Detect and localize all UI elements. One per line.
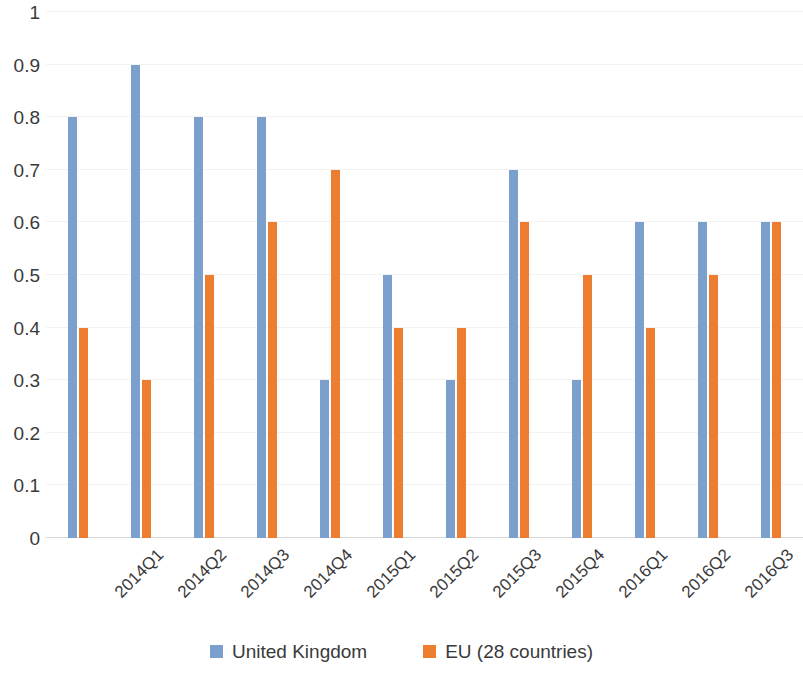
gridline	[46, 484, 803, 485]
bar[interactable]	[583, 275, 592, 538]
bar-group	[635, 12, 655, 538]
gridline	[46, 379, 803, 380]
y-axis-tick-label: 0.5	[14, 266, 40, 285]
y-axis-tick-label: 0.6	[14, 213, 40, 232]
bar-group	[509, 12, 529, 538]
x-axis-tick-label: 2014Q1	[111, 546, 166, 601]
bar-group	[446, 12, 466, 538]
bar[interactable]	[79, 328, 88, 538]
y-axis-tick-label: 0	[29, 529, 40, 548]
gridline	[46, 221, 803, 222]
bar[interactable]	[698, 222, 707, 538]
y-axis-tick-label: 0.1	[14, 476, 40, 495]
bar[interactable]	[131, 65, 140, 538]
x-axis-tick-label: 2016Q2	[679, 546, 734, 601]
bar[interactable]	[194, 117, 203, 538]
bar-group	[320, 12, 340, 538]
y-axis-tick-label: 0.8	[14, 108, 40, 127]
bar[interactable]	[457, 328, 466, 538]
bar-group	[131, 12, 151, 538]
bar-chart: 00.10.20.30.40.50.60.70.80.91 2014Q12014…	[0, 0, 803, 675]
plot-area	[46, 12, 803, 538]
x-axis-tick-label: 2014Q3	[237, 546, 292, 601]
bar[interactable]	[394, 328, 403, 538]
bar[interactable]	[635, 222, 644, 538]
y-axis-tick-label: 1	[29, 3, 40, 22]
gridline	[46, 64, 803, 65]
bar[interactable]	[509, 170, 518, 538]
gridline	[46, 169, 803, 170]
bar[interactable]	[520, 222, 529, 538]
bar-group	[761, 12, 781, 538]
gridline	[46, 11, 803, 12]
y-axis-tick-label: 0.2	[14, 423, 40, 442]
y-axis: 00.10.20.30.40.50.60.70.80.91	[0, 0, 46, 560]
x-axis-tick-label: 2014Q2	[174, 546, 229, 601]
legend-item[interactable]: United Kingdom	[210, 642, 367, 661]
bar[interactable]	[142, 380, 151, 538]
gridline	[46, 274, 803, 275]
x-axis-tick-label: 2015Q2	[427, 546, 482, 601]
bar[interactable]	[331, 170, 340, 538]
x-axis-tick-label: 2015Q4	[553, 546, 608, 601]
bar-group	[257, 12, 277, 538]
bar[interactable]	[268, 222, 277, 538]
bar-group	[68, 12, 88, 538]
bar[interactable]	[383, 275, 392, 538]
y-axis-tick-label: 0.4	[14, 318, 40, 337]
bar[interactable]	[646, 328, 655, 538]
bar-group	[698, 12, 718, 538]
x-axis: 2014Q12014Q22014Q32014Q42015Q12015Q22015…	[46, 538, 803, 628]
bar[interactable]	[572, 380, 581, 538]
chart-legend: United KingdomEU (28 countries)	[0, 636, 803, 666]
bar[interactable]	[772, 222, 781, 538]
bar-group	[572, 12, 592, 538]
legend-label: EU (28 countries)	[445, 642, 593, 661]
y-axis-tick-label: 0.3	[14, 371, 40, 390]
legend-item[interactable]: EU (28 countries)	[423, 642, 593, 661]
y-axis-tick-label: 0.9	[14, 55, 40, 74]
x-axis-tick-label: 2014Q4	[301, 546, 356, 601]
bar[interactable]	[257, 117, 266, 538]
legend-swatch-icon	[423, 645, 436, 658]
bar[interactable]	[320, 380, 329, 538]
gridline	[46, 327, 803, 328]
bar-group	[194, 12, 214, 538]
gridline	[46, 432, 803, 433]
bar[interactable]	[761, 222, 770, 538]
x-axis-tick-label: 2015Q3	[490, 546, 545, 601]
bar[interactable]	[709, 275, 718, 538]
bar[interactable]	[446, 380, 455, 538]
y-axis-tick-label: 0.7	[14, 160, 40, 179]
legend-label: United Kingdom	[232, 642, 367, 661]
gridline	[46, 116, 803, 117]
bar[interactable]	[205, 275, 214, 538]
legend-swatch-icon	[210, 645, 223, 658]
bar-group	[383, 12, 403, 538]
x-axis-tick-label: 2016Q3	[742, 546, 797, 601]
bar[interactable]	[68, 117, 77, 538]
x-axis-tick-label: 2015Q1	[364, 546, 419, 601]
x-axis-tick-label: 2016Q1	[616, 546, 671, 601]
